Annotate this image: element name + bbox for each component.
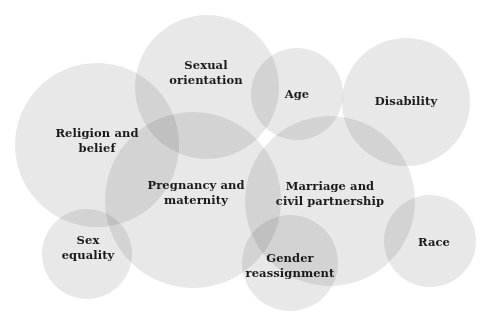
venn-label-sexual-orientation: Sexual orientation	[169, 58, 242, 87]
venn-diagram-figure: Religion and beliefSexual orientationAge…	[0, 0, 486, 315]
venn-label-gender-reassignment: Gender reassignment	[246, 251, 335, 280]
venn-label-disability: Disability	[375, 94, 437, 109]
venn-labels-layer: Religion and beliefSexual orientationAge…	[0, 0, 486, 315]
venn-label-pregnancy-and-maternity: Pregnancy and maternity	[147, 178, 244, 207]
venn-label-marriage-and-civil-partnership: Marriage and civil partnership	[276, 179, 384, 208]
venn-label-religion-and-belief: Religion and belief	[55, 126, 138, 155]
venn-label-sex-equality: Sex equality	[62, 233, 115, 262]
venn-label-race: Race	[418, 235, 450, 250]
venn-label-age: Age	[285, 87, 310, 102]
